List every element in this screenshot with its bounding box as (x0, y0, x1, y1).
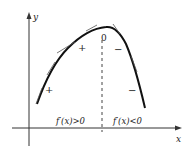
left-region-label: f′(x)>0 (55, 116, 86, 126)
plus-sign-lower: + (45, 84, 53, 95)
y-axis (27, 12, 32, 146)
plus-sign-upper: + (78, 42, 86, 53)
minus-sign-upper: − (114, 44, 122, 55)
y-axis-arrow-icon (27, 12, 32, 19)
right-region-label: f′(x)<0 (112, 116, 143, 126)
minus-sign-lower: − (128, 85, 136, 96)
x-axis-arrow-icon (175, 126, 182, 131)
x-axis-label: x (176, 134, 181, 144)
derivative-sign-diagram: y x 0 + + − − f′(x)>0 f′(x)<0 (0, 0, 195, 154)
y-axis-label: y (32, 12, 39, 22)
tangent-line-1 (36, 88, 42, 104)
x-axis (12, 126, 182, 131)
peak-zero-label: 0 (101, 33, 107, 43)
